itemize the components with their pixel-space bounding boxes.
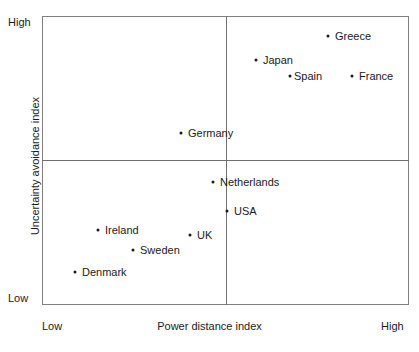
data-point-label: Denmark [82, 267, 127, 278]
data-point [289, 75, 292, 78]
data-point-label: UK [197, 230, 212, 241]
data-point-label: Sweden [140, 245, 180, 256]
x-axis-title: Power distance index [0, 320, 419, 332]
data-point [189, 234, 192, 237]
data-point [97, 229, 100, 232]
data-point [212, 181, 215, 184]
data-point-label: USA [234, 206, 257, 217]
data-point [226, 210, 229, 213]
y-axis-low-label: Low [8, 292, 28, 304]
data-point-label: Japan [263, 55, 293, 66]
data-point [132, 249, 135, 252]
y-axis-high-label: High [8, 16, 31, 28]
data-point-label: Ireland [105, 225, 139, 236]
data-point-label: Greece [335, 31, 371, 42]
data-point-label: Netherlands [220, 177, 279, 188]
data-point [255, 59, 258, 62]
data-point-label: Spain [294, 71, 322, 82]
quadrant-divider-vertical [226, 16, 227, 305]
data-point-label: Germany [188, 128, 233, 139]
data-point [327, 35, 330, 38]
data-point [180, 132, 183, 135]
caption-clipped-strip [8, 344, 248, 352]
scatter-plot-figure: GreeceJapanSpainFranceGermanyNetherlands… [0, 0, 419, 352]
y-axis-title: Uncertainty avoidance index [29, 46, 41, 286]
data-point [351, 75, 354, 78]
data-point [74, 271, 77, 274]
data-point-label: France [359, 71, 393, 82]
